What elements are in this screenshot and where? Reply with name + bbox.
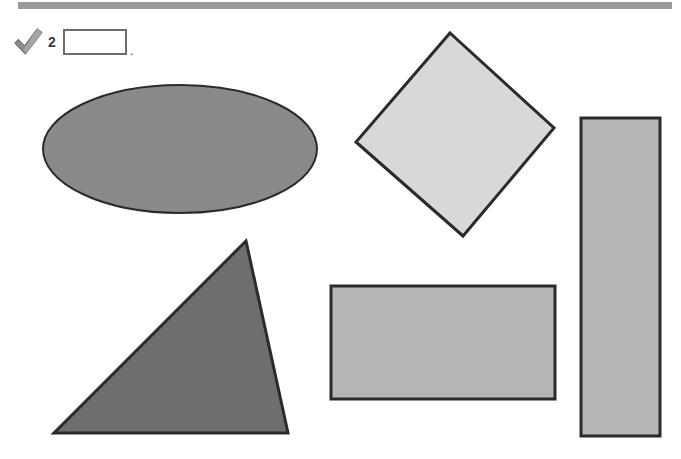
worksheet-page: 2 . <box>0 0 681 459</box>
triangle-shape[interactable] <box>54 241 288 433</box>
vertical-rectangle-shape[interactable] <box>581 118 660 436</box>
diamond-shape[interactable] <box>356 33 554 236</box>
shapes-canvas <box>0 0 681 459</box>
ellipse-shape[interactable] <box>43 85 317 213</box>
horizontal-rectangle-shape[interactable] <box>331 286 555 399</box>
